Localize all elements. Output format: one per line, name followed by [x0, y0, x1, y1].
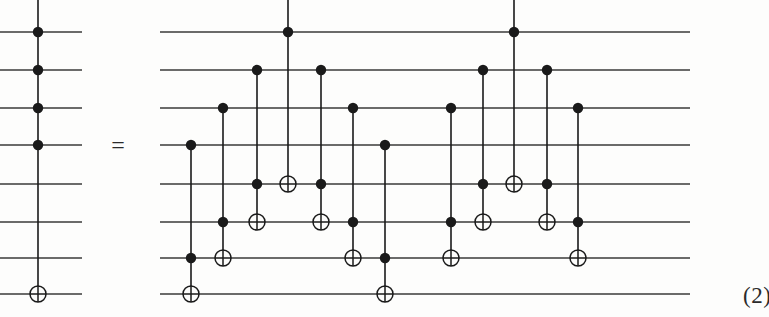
right-gate-c10: [506, 0, 522, 192]
control-dot-wire-1: [509, 27, 519, 37]
control-dot-wire-7: [380, 253, 390, 263]
right-gate-c1: [183, 140, 199, 302]
right-circuit: [160, 0, 690, 302]
equals-sign-group: =: [111, 132, 125, 158]
control-dot-wire-6: [348, 217, 358, 227]
control-dot-wire-2: [252, 65, 262, 75]
right-gate-c3: [249, 65, 265, 230]
control-dot-wire-2: [33, 65, 43, 75]
control-dot-wire-1: [33, 27, 43, 37]
control-dot-wire-5: [316, 179, 326, 189]
control-dot-wire-3: [446, 103, 456, 113]
control-dot-wire-2: [478, 65, 488, 75]
control-dot-wire-6: [573, 217, 583, 227]
control-dot-wire-6: [218, 217, 228, 227]
equation-number: (2): [743, 283, 769, 309]
right-gate-c7: [377, 140, 393, 302]
right-gate-c9: [475, 65, 491, 230]
control-dot-wire-2: [542, 65, 552, 75]
control-dot-wire-3: [573, 103, 583, 113]
right-gate-c5: [313, 65, 329, 230]
control-dot-wire-5: [252, 179, 262, 189]
control-dot-wire-3: [348, 103, 358, 113]
quantum-circuit-diagram: =: [0, 0, 769, 317]
left-circuit: [0, 0, 82, 302]
figure-root: = (2): [0, 0, 769, 317]
control-dot-wire-5: [542, 179, 552, 189]
left-gate-main: [30, 0, 46, 302]
right-gate-c11: [539, 65, 555, 230]
control-dot-wire-6: [446, 217, 456, 227]
right-gate-c4: [280, 0, 296, 192]
control-dot-wire-4: [33, 140, 43, 150]
control-dot-wire-2: [316, 65, 326, 75]
control-dot-wire-3: [33, 103, 43, 113]
control-dot-wire-3: [218, 103, 228, 113]
control-dot-wire-5: [478, 179, 488, 189]
control-dot-wire-4: [186, 140, 196, 150]
control-dot-wire-4: [380, 140, 390, 150]
control-dot-wire-7: [186, 253, 196, 263]
control-dot-wire-1: [283, 27, 293, 37]
equals-sign: =: [111, 132, 125, 158]
